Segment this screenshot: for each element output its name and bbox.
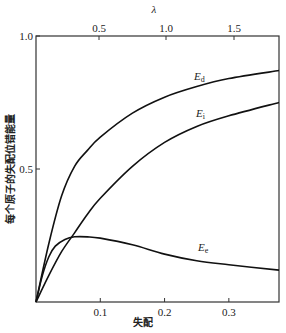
top-axis-title: λ [151, 3, 157, 15]
curve-d [36, 71, 279, 302]
curve-e [36, 237, 279, 302]
x-tick-label: 0.1 [93, 306, 107, 318]
series-label-i: Ei [195, 107, 206, 121]
x-axis-title: 失配 [133, 316, 153, 328]
chart: 0.10.20.3 0.51.01.5 0.51.0 EdEiEe λ 失配 每… [0, 0, 286, 333]
series-label-d: Ed [193, 70, 205, 84]
y-tick-label: 1.0 [19, 30, 33, 42]
x-tick-label: 0.2 [158, 306, 172, 318]
x-tick-label: 0.3 [222, 306, 236, 318]
y-tick-label: 0.5 [19, 163, 33, 175]
curve-i [36, 103, 279, 303]
top-tick-label: 1.5 [227, 22, 241, 34]
top-tick-label: 0.5 [92, 22, 106, 34]
top-tick-label: 1.0 [159, 22, 173, 34]
y-axis-title: 每个原子的失配位错能量 [4, 114, 16, 224]
series-label-e: Ee [197, 241, 209, 255]
